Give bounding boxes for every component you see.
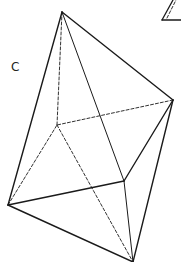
hidden-edge-left-back: [8, 125, 57, 205]
solid-edges: [8, 12, 173, 262]
edge-front-bottom: [124, 181, 133, 262]
hidden-edge-back-bottom: [57, 125, 133, 262]
octahedron-figure: [0, 0, 181, 262]
edge-right-bottom: [133, 100, 173, 262]
edge-right-front: [124, 100, 173, 181]
figure-label: C: [11, 60, 19, 74]
edge-left-bottom: [8, 205, 133, 262]
edge-top-left: [8, 12, 62, 205]
hidden-edge-right-back: [57, 100, 173, 125]
neighbor-figure-fragment: [162, 0, 181, 20]
dashed-edges: [8, 12, 173, 262]
edge-left-front: [8, 181, 124, 205]
